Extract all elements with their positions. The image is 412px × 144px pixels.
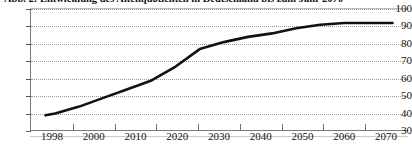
- series-line-altenquotient: [45, 23, 392, 115]
- chart-figure: Abb. 2: Entwicklung des Altenquotienten …: [0, 0, 412, 144]
- series-layer: [0, 0, 412, 144]
